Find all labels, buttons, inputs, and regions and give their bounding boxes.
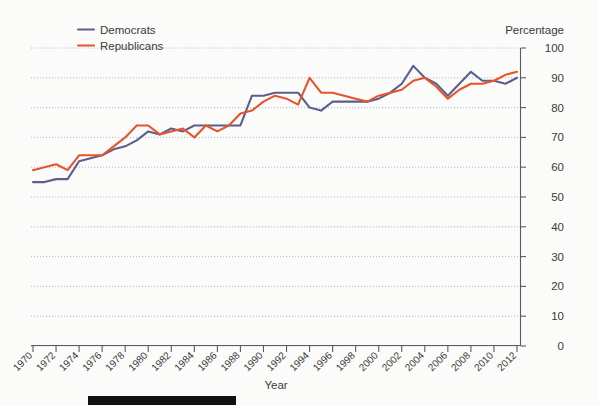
y-tick-labels: 1009080706050403020100 [545, 42, 564, 352]
x-tick-label: 2012 [495, 349, 519, 373]
y-tick-label: 40 [551, 221, 564, 233]
x-tick-label: 1982 [149, 349, 173, 373]
x-axis [31, 346, 521, 353]
y-tick-label: 70 [551, 131, 564, 143]
x-tick-label: 1986 [195, 349, 219, 373]
x-tick-label: 2008 [449, 349, 473, 373]
series-lines [33, 66, 517, 182]
x-tick-label: 1992 [264, 349, 288, 373]
bottom-decor-bar [88, 396, 236, 405]
x-tick-label: 2006 [426, 349, 450, 373]
x-tick-label: 1998 [334, 349, 358, 373]
x-tick-label: 2004 [403, 349, 427, 373]
x-tick-label: 1990 [241, 349, 265, 373]
x-tick-labels: 1970197219741976197819801982198419861988… [11, 349, 519, 373]
x-axis-title: Year [264, 379, 287, 391]
x-tick-label: 1988 [218, 349, 242, 373]
series-line-republicans [33, 72, 517, 170]
x-tick-label: 1996 [311, 349, 335, 373]
legend-label-democrats: Democrats [100, 24, 156, 36]
y-tick-label: 30 [551, 251, 564, 263]
x-tick-label: 1972 [34, 349, 58, 373]
line-chart: 1009080706050403020100 19701972197419761… [0, 0, 599, 406]
chart-container: 1009080706050403020100 19701972197419761… [0, 0, 599, 406]
series-line-democrats [33, 66, 517, 182]
y-tick-label: 10 [551, 310, 564, 322]
y-tick-label: 50 [551, 191, 564, 203]
x-tick-label: 1974 [57, 349, 81, 373]
y-tick-label: 60 [551, 161, 564, 173]
y-tick-label: 100 [545, 42, 564, 54]
x-tick-label: 1978 [103, 349, 127, 373]
legend: Democrats Republicans [78, 24, 164, 52]
x-tick-label: 1970 [11, 349, 35, 373]
y-tick-label: 0 [558, 340, 564, 352]
y-tick-label: 20 [551, 280, 564, 292]
x-tick-label: 1980 [126, 349, 150, 373]
y-tick-label: 90 [551, 72, 564, 84]
y-tick-label: 80 [551, 102, 564, 114]
x-tick-label: 1984 [172, 349, 196, 373]
x-tick-label: 1994 [287, 349, 311, 373]
x-tick-label: 2000 [357, 349, 381, 373]
x-tick-label: 2002 [380, 349, 404, 373]
legend-label-republicans: Republicans [100, 40, 164, 52]
x-tick-label: 2010 [472, 349, 496, 373]
x-tick-label: 1976 [80, 349, 104, 373]
y-axis-title: Percentage [505, 24, 564, 36]
